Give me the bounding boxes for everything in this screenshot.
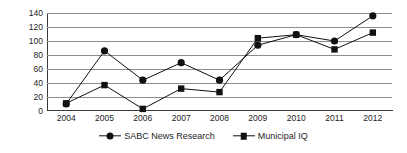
- x-axis-tick-label: 2007: [172, 114, 191, 123]
- x-axis-tick-label: 2011: [325, 114, 343, 123]
- x-axis-tick-label: 2009: [248, 114, 267, 123]
- series-layer: [47, 13, 392, 111]
- square-marker-icon: [216, 89, 222, 95]
- circle-marker-icon: [101, 47, 108, 54]
- legend-label: Municipal IQ: [258, 132, 308, 141]
- legend-item-sabc-news-research[interactable]: SABC News Research: [99, 131, 215, 141]
- line-chart: 020406080100120140 200420052006200720082…: [0, 0, 407, 153]
- square-marker-icon: [178, 85, 184, 91]
- legend-label: SABC News Research: [124, 132, 215, 141]
- y-axis-tick-label: 140: [29, 9, 43, 18]
- square-marker-icon: [63, 100, 69, 106]
- circle-marker-icon: [331, 37, 338, 44]
- circle-marker-icon: [178, 59, 185, 66]
- circle-marker-icon: [216, 77, 223, 84]
- y-axis-tick-label: 20: [34, 93, 43, 102]
- x-axis-tick-label: 2004: [57, 114, 76, 123]
- square-marker-icon: [255, 35, 261, 41]
- x-axis-tick-label: 2006: [133, 114, 152, 123]
- circle-marker-icon: [139, 77, 146, 84]
- series-line: [66, 33, 373, 109]
- circle-marker-icon: [99, 131, 121, 141]
- square-marker-icon: [293, 32, 299, 38]
- square-marker-icon: [140, 106, 146, 112]
- y-axis-tick-labels: 020406080100120140: [0, 13, 43, 111]
- y-axis-tick-label: 80: [34, 51, 43, 60]
- chart-legend: SABC News Research Municipal IQ: [0, 131, 407, 141]
- legend-item-municipal-iq[interactable]: Municipal IQ: [233, 131, 308, 141]
- x-axis-tick-label: 2008: [210, 114, 229, 123]
- y-axis-tick-label: 0: [38, 107, 43, 116]
- y-axis-tick-label: 40: [34, 79, 43, 88]
- circle-marker-icon: [254, 42, 261, 49]
- x-axis-tick-labels: 200420052006200720082009201020112012: [47, 114, 392, 128]
- y-axis-tick-label: 120: [29, 23, 43, 32]
- square-marker-icon: [370, 29, 376, 35]
- x-axis-tick-label: 2010: [287, 114, 306, 123]
- y-axis-tick-label: 60: [34, 65, 43, 74]
- circle-marker-icon: [369, 12, 376, 19]
- square-marker-icon: [101, 82, 107, 88]
- x-axis-tick-label: 2005: [95, 114, 114, 123]
- x-axis-tick-label: 2012: [363, 114, 382, 123]
- square-marker-icon: [233, 131, 255, 141]
- y-axis-tick-label: 100: [29, 37, 43, 46]
- square-marker-icon: [331, 46, 337, 52]
